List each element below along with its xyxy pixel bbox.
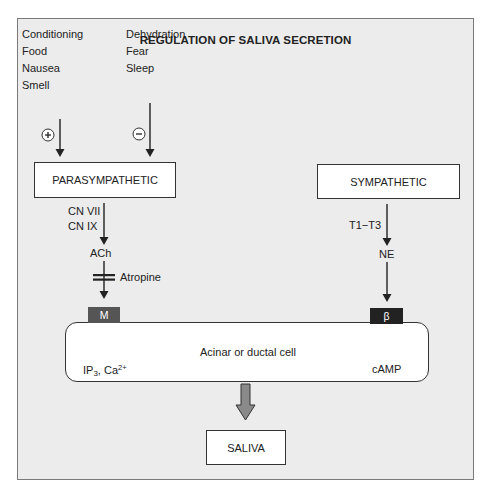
minus-circle-icon bbox=[133, 128, 145, 140]
plus-circle-icon bbox=[42, 129, 54, 141]
t1-t3-arrow bbox=[383, 204, 392, 246]
secretion-arrow-icon bbox=[236, 384, 255, 420]
saliva-box: SALIVA bbox=[206, 430, 286, 465]
sympathetic-label: SYMPATHETIC bbox=[350, 176, 427, 188]
ne-label: NE bbox=[379, 246, 394, 263]
stimulate-arrow bbox=[56, 119, 65, 157]
cell-label: Acinar or ductal cell bbox=[200, 344, 296, 361]
cn-arrow bbox=[100, 203, 109, 245]
m-receptor: M bbox=[88, 307, 120, 323]
saliva-label: SALIVA bbox=[227, 442, 265, 454]
inhibit-arrow bbox=[146, 103, 155, 157]
ca-text: , Ca bbox=[98, 364, 118, 376]
parasympathetic-box: PARASYMPATHETIC bbox=[34, 162, 176, 198]
ach-label: ACh bbox=[90, 245, 111, 262]
m-receptor-label: M bbox=[100, 309, 109, 321]
atropine-label: Atropine bbox=[120, 269, 161, 286]
cn-label: CN VII bbox=[68, 204, 100, 219]
ip3-ca-label: IP3, Ca2+ bbox=[83, 359, 127, 382]
camp-label: cAMP bbox=[372, 361, 401, 378]
ca-superscript: 2+ bbox=[118, 363, 127, 372]
ne-arrow bbox=[383, 262, 392, 302]
ip-text: IP bbox=[83, 364, 93, 376]
beta-receptor-label: β bbox=[383, 310, 389, 322]
cranial-nerves: CN VII CN IX bbox=[68, 204, 100, 234]
parasympathetic-label: PARASYMPATHETIC bbox=[52, 174, 158, 186]
cn-label: CN IX bbox=[68, 219, 100, 234]
sympathetic-box: SYMPATHETIC bbox=[317, 164, 460, 199]
beta-receptor: β bbox=[370, 308, 403, 324]
diagram-connectors bbox=[0, 0, 490, 496]
t1-t3-label: T1−T3 bbox=[349, 217, 381, 234]
